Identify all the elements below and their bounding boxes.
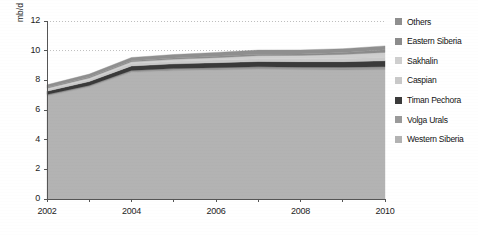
legend-swatch-icon bbox=[395, 97, 402, 104]
legend-item-others[interactable]: Others bbox=[395, 12, 478, 32]
y-tick-label-12: 12 bbox=[18, 15, 40, 25]
stacked-area-chart-figure: mb/d 024681012 20022004200620082010 Othe… bbox=[0, 0, 478, 235]
legend-item-label: Volga Urals bbox=[407, 116, 448, 125]
gridlines-group bbox=[47, 21, 385, 51]
x-tick-label-2004: 2004 bbox=[115, 206, 149, 216]
legend-item-caspian[interactable]: Caspian bbox=[395, 71, 478, 91]
stacked-areas-group bbox=[47, 46, 385, 199]
legend-swatch-icon bbox=[395, 116, 402, 123]
legend-item-label: Western Siberia bbox=[407, 135, 464, 144]
legend-item-label: Others bbox=[407, 18, 431, 27]
y-tick-label-4: 4 bbox=[18, 134, 40, 144]
legend-item-timan-pechora[interactable]: Timan Pechora bbox=[395, 90, 478, 110]
y-tick-label-0: 0 bbox=[18, 193, 40, 203]
legend-swatch-icon bbox=[395, 38, 402, 45]
legend-swatch-icon bbox=[395, 18, 402, 25]
legend-item-label: Sakhalin bbox=[407, 57, 438, 66]
x-tick-label-2002: 2002 bbox=[30, 206, 64, 216]
x-tick-label-2008: 2008 bbox=[284, 206, 318, 216]
chart-legend: OthersEastern SiberiaSakhalinCaspianTima… bbox=[395, 12, 478, 149]
x-tick-label-2006: 2006 bbox=[199, 206, 233, 216]
legend-item-sakhalin[interactable]: Sakhalin bbox=[395, 51, 478, 71]
legend-item-label: Caspian bbox=[407, 76, 436, 85]
legend-item-volga-urals[interactable]: Volga Urals bbox=[395, 110, 478, 130]
legend-swatch-icon bbox=[395, 136, 402, 143]
y-tick-label-6: 6 bbox=[18, 104, 40, 114]
y-tick-label-2: 2 bbox=[18, 163, 40, 173]
area-series-western-siberia bbox=[47, 69, 385, 199]
legend-swatch-icon bbox=[395, 57, 402, 64]
x-tick-label-2010: 2010 bbox=[368, 206, 402, 216]
legend-item-eastern-siberia[interactable]: Eastern Siberia bbox=[395, 32, 478, 52]
y-tick-label-10: 10 bbox=[18, 45, 40, 55]
legend-item-western-siberia[interactable]: Western Siberia bbox=[395, 130, 478, 150]
y-tick-label-8: 8 bbox=[18, 74, 40, 84]
legend-swatch-icon bbox=[395, 77, 402, 84]
legend-item-label: Eastern Siberia bbox=[407, 37, 461, 46]
legend-item-label: Timan Pechora bbox=[407, 96, 461, 105]
